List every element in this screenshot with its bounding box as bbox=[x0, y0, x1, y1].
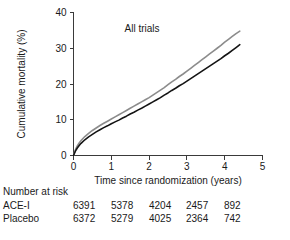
risk-value-placebo-0: 6372 bbox=[73, 213, 103, 224]
number-at-risk-title: Number at risk bbox=[3, 186, 68, 197]
risk-value-ace-4: 892 bbox=[224, 200, 254, 211]
table-row: ACE-I 6391 5378 4204 2457 892 bbox=[0, 200, 290, 213]
curve-ace-i bbox=[74, 45, 240, 156]
risk-value-placebo-3: 2364 bbox=[186, 213, 216, 224]
risk-value-ace-2: 4204 bbox=[149, 200, 179, 211]
plot-annotation: All trials bbox=[125, 23, 160, 34]
x-tick-label-4: 4 bbox=[222, 161, 228, 172]
cumulative-mortality-plot: 010203040012345Cumulative mortality (%)T… bbox=[0, 0, 290, 186]
y-tick-label-40: 40 bbox=[55, 7, 67, 18]
risk-value-ace-1: 5378 bbox=[111, 200, 141, 211]
x-axis-title: Time since randomization (years) bbox=[94, 175, 241, 186]
risk-value-placebo-2: 4025 bbox=[149, 213, 179, 224]
risk-value-ace-3: 2457 bbox=[186, 200, 216, 211]
x-tick-label-0: 0 bbox=[71, 161, 77, 172]
risk-value-ace-0: 6391 bbox=[73, 200, 103, 211]
y-tick-label-10: 10 bbox=[55, 114, 67, 125]
y-tick-label-20: 20 bbox=[55, 79, 67, 90]
risk-value-placebo-1: 5279 bbox=[111, 213, 141, 224]
risk-row-label-ace: ACE-I bbox=[3, 200, 30, 211]
risk-row-label-placebo: Placebo bbox=[3, 213, 39, 224]
y-tick-label-0: 0 bbox=[61, 150, 67, 161]
x-tick-label-2: 2 bbox=[146, 161, 152, 172]
y-axis-title: Cumulative mortality (%) bbox=[16, 30, 27, 139]
x-tick-label-1: 1 bbox=[109, 161, 115, 172]
x-tick-label-5: 5 bbox=[260, 161, 266, 172]
survival-curve-figure: 010203040012345Cumulative mortality (%)T… bbox=[0, 0, 290, 240]
curve-placebo bbox=[74, 31, 240, 155]
x-tick-label-3: 3 bbox=[184, 161, 190, 172]
table-row: Placebo 6372 5279 4025 2364 742 bbox=[0, 213, 290, 226]
risk-value-placebo-4: 742 bbox=[224, 213, 254, 224]
y-tick-label-30: 30 bbox=[55, 43, 67, 54]
